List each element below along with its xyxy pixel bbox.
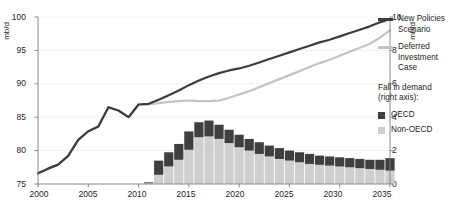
legend-item-new-policies: New Policies Scenario xyxy=(378,14,456,35)
legend-item-deferred: Deferred Investment Case xyxy=(378,42,456,74)
legend-group-title-l1: Fall in demand xyxy=(378,83,432,92)
legend-swatch-non-oecd xyxy=(378,127,385,134)
bars-layer xyxy=(144,121,395,184)
legend-label-non-oecd: Non-OECD xyxy=(391,125,432,136)
legend-label-oecd: OECD xyxy=(391,110,415,121)
legend-line-new-policies xyxy=(378,18,393,21)
legend-swatch-oecd xyxy=(378,112,385,119)
legend: New Policies Scenario Deferred Investmen… xyxy=(378,14,456,141)
legend-label-deferred-l1: Deferred xyxy=(398,42,430,51)
legend-group-title: Fall in demand (right axis): xyxy=(378,83,456,104)
chart-container: mb/d mb/d 100 95 90 85 80 75 10 8 6 4 2 … xyxy=(0,0,456,210)
legend-group-title-l2: (right axis): xyxy=(378,93,419,102)
legend-label-deferred-l2: Investment Case xyxy=(398,53,438,73)
legend-label-new-policies-l1: New Policies xyxy=(398,14,445,23)
legend-item-oecd: OECD xyxy=(378,110,456,121)
legend-label-new-policies-l2: Scenario xyxy=(398,25,430,34)
legend-item-non-oecd: Non-OECD xyxy=(378,125,456,136)
legend-label-new-policies: New Policies Scenario xyxy=(398,14,445,35)
legend-line-deferred xyxy=(378,46,393,49)
legend-label-deferred: Deferred Investment Case xyxy=(398,42,456,74)
